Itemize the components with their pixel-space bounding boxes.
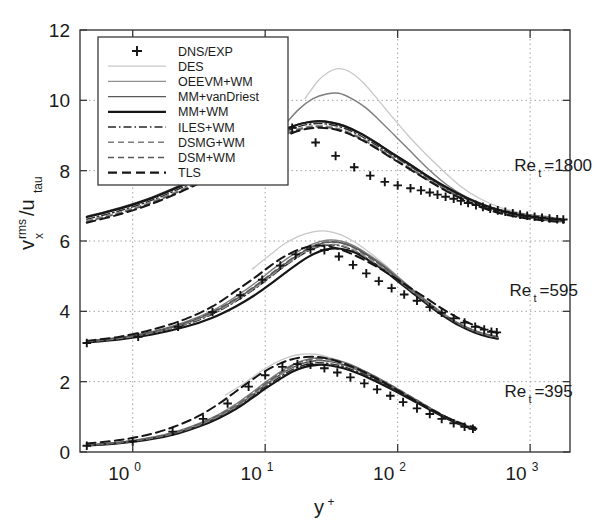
legend-item-label: ILES+WM xyxy=(178,121,235,135)
legend-item-label: DSMG+WM xyxy=(178,136,245,150)
y-axis-title-rest: /u xyxy=(16,199,38,216)
chart-figure: 024681012100101102103 Ret=1800Ret=595Ret… xyxy=(0,0,603,532)
x-axis-title-superscript: + xyxy=(327,495,334,509)
legend-item-label: DNS/EXP xyxy=(178,45,233,59)
x-tick-exponent: 2 xyxy=(399,460,406,474)
y-tick-label: 6 xyxy=(59,231,70,252)
x-tick-exponent: 1 xyxy=(267,460,274,474)
x-axis-title: y xyxy=(314,496,324,518)
y-tick-label: 0 xyxy=(59,442,70,463)
x-tick-exponent: 3 xyxy=(532,460,539,474)
legend-item-label: DES xyxy=(178,60,204,74)
y-tick-label: 8 xyxy=(59,161,70,182)
chart-legend: DNS/EXPDESOEEVM+WMMM+vanDriestMM+WMILES+… xyxy=(98,37,288,185)
y-axis-title-superscript: rms xyxy=(15,219,29,239)
y-tick-label: 10 xyxy=(49,90,70,111)
x-tick-label: 10 xyxy=(373,463,394,484)
legend-item-label: TLS xyxy=(178,166,201,180)
ret-annotation-subscript: t xyxy=(528,393,531,405)
ret-annotation-label: Re xyxy=(514,156,536,175)
x-tick-label: 10 xyxy=(506,463,527,484)
x-tick-label: 10 xyxy=(241,463,262,484)
ret-annotation-label: Re xyxy=(510,281,532,300)
legend-item-label: MM+WM xyxy=(178,105,228,119)
x-tick-label: 10 xyxy=(108,463,129,484)
ret-annotation-subscript: t xyxy=(534,292,537,304)
y-axis-title-subscript: x xyxy=(32,233,46,239)
x-tick-exponent: 0 xyxy=(134,460,141,474)
ret-annotation-value: =395 xyxy=(534,382,572,401)
ret-annotation-value: =595 xyxy=(540,281,578,300)
y-tick-label: 4 xyxy=(59,301,70,322)
legend-item-label: MM+vanDriest xyxy=(178,90,259,104)
y-tick-label: 2 xyxy=(59,372,70,393)
legend-item-label: DSM+WM xyxy=(178,151,235,165)
ret-annotation-subscript: t xyxy=(538,167,541,179)
ret-annotation-value: =1800 xyxy=(544,156,592,175)
y-tick-label: 12 xyxy=(49,20,70,41)
y-axis-title-rest-subscript: tau xyxy=(31,176,45,193)
ret-annotation-label: Re xyxy=(504,382,526,401)
y-axis-title-v: v xyxy=(16,240,38,250)
legend-item-label: OEEVM+WM xyxy=(178,75,253,89)
